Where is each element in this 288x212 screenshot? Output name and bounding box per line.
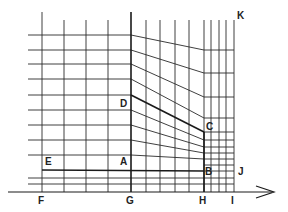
label-A: A <box>120 156 127 167</box>
transition-line <box>131 110 204 140</box>
label-I: I <box>231 195 234 206</box>
line-D-C <box>131 95 204 132</box>
label-B: B <box>205 166 212 177</box>
label-D: D <box>120 98 127 109</box>
transition-line <box>131 155 204 159</box>
transition-line <box>131 35 204 50</box>
label-E: E <box>45 156 52 167</box>
grid-lines <box>8 12 274 198</box>
transition-line <box>131 125 204 147</box>
grid-diagram: K D C E A B J F G H I <box>0 0 288 212</box>
label-C: C <box>206 121 213 132</box>
label-K: K <box>237 10 245 21</box>
label-J: J <box>238 166 244 177</box>
transition-line <box>131 79 204 118</box>
transition-line <box>131 64 204 97</box>
line-E-A-B <box>42 170 204 171</box>
transition-line <box>131 140 204 153</box>
label-H: H <box>199 195 206 206</box>
label-G: G <box>126 195 134 206</box>
label-F: F <box>38 195 44 206</box>
transition-line <box>131 50 204 73</box>
